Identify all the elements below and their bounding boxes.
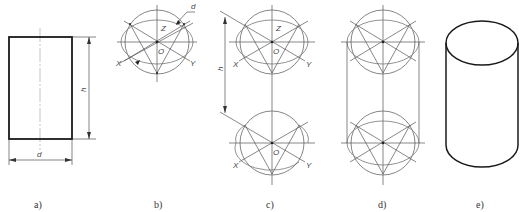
point	[129, 23, 131, 25]
construction-line	[130, 24, 157, 73]
cylinder-isometric-figure: h d Z O X Y d	[0, 0, 523, 212]
cylinder-front-view	[9, 37, 72, 139]
axis-x-label: X	[115, 59, 122, 68]
axis-y-label: Y	[306, 60, 312, 69]
arrow-icon	[87, 37, 91, 44]
axis-x-label: X	[232, 60, 239, 69]
panel-a: h d	[9, 28, 96, 165]
dimension-h-label: h	[216, 66, 225, 71]
axis-y-label: Y	[190, 59, 196, 68]
ellipse-bottom-partial	[235, 125, 299, 170]
construction-line	[356, 24, 383, 73]
axis-y-label: Y	[306, 161, 312, 170]
dimension-h-label: h	[79, 87, 88, 92]
axis-z-label: Z	[275, 24, 282, 33]
cylinder-top-face	[446, 21, 518, 65]
arrow-icon	[87, 132, 91, 139]
origin-point	[156, 41, 159, 44]
origin-point	[271, 41, 274, 44]
diameter-d-label: d	[191, 2, 196, 11]
arrow-icon	[65, 158, 72, 162]
panel-d	[341, 5, 425, 185]
point	[183, 23, 185, 25]
origin-point	[382, 142, 385, 145]
arrow-icon	[223, 17, 227, 24]
construction-line	[245, 125, 272, 174]
arrow-icon	[9, 158, 16, 162]
point	[156, 72, 158, 74]
axis-z-label: Z	[160, 24, 167, 33]
origin-label: O	[273, 148, 279, 157]
axis-x-label: X	[232, 161, 239, 170]
cylinder-bottom-edge	[446, 145, 518, 167]
arrow-icon	[223, 106, 227, 113]
origin-label: O	[158, 47, 164, 56]
caption-d: d)	[378, 199, 386, 211]
construction-line	[383, 125, 410, 174]
caption-e: e)	[476, 199, 484, 211]
panel-c: Z O X Y h O X Y	[216, 5, 315, 185]
panel-b: Z O X Y d	[115, 2, 197, 82]
construction-line	[356, 125, 383, 174]
caption-c: c)	[266, 199, 274, 211]
origin-point	[382, 41, 385, 44]
panel-e	[446, 21, 518, 167]
dimension-d-label: d	[37, 150, 42, 159]
construction-line	[245, 24, 272, 73]
caption-a: a)	[34, 199, 42, 211]
origin-point	[271, 142, 274, 145]
construction-line	[383, 24, 410, 73]
origin-label: O	[273, 47, 279, 56]
caption-b: b)	[154, 199, 162, 211]
